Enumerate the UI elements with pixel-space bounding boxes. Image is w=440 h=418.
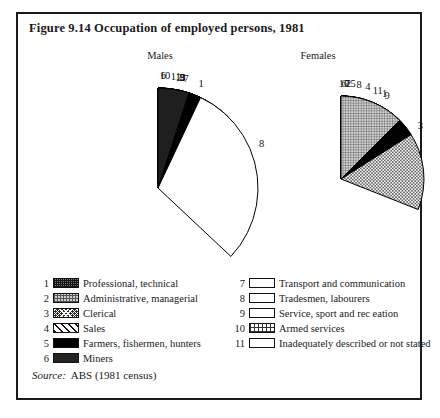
pie-slice-label-3: 3 bbox=[418, 120, 423, 131]
legend-swatch-7 bbox=[249, 278, 275, 288]
figure-frame: Figure 9.14 Occupation of employed perso… bbox=[16, 12, 422, 400]
legend-label: Armed services bbox=[275, 323, 345, 334]
legend-label: Sales bbox=[79, 323, 105, 334]
legend-number: 2 bbox=[34, 293, 53, 304]
legend-number: 1 bbox=[34, 278, 53, 289]
pie-slice-label-9: 9 bbox=[180, 72, 185, 83]
pie-slice-label-10: 10 bbox=[339, 78, 350, 89]
source-label: Source: bbox=[32, 369, 66, 381]
legend-label: Tradesmen, labourers bbox=[275, 293, 370, 304]
legend-label: Miners bbox=[79, 353, 113, 364]
legend-item-10: 10Armed services bbox=[230, 321, 426, 336]
legend-item-4: 4Sales bbox=[34, 321, 234, 336]
legend-label: Clerical bbox=[79, 308, 116, 319]
pie-slice-label-10: 10 bbox=[160, 70, 171, 81]
legend-number: 7 bbox=[230, 278, 249, 289]
pie-slice-label-8: 8 bbox=[356, 79, 361, 90]
legend-item-7: 7Transport and communication bbox=[230, 276, 426, 291]
legend-swatch-8 bbox=[249, 293, 275, 303]
legend-column-right: 7Transport and communication8Tradesmen, … bbox=[230, 276, 426, 351]
legend-number: 5 bbox=[34, 338, 53, 349]
legend-label: Service, sport and rec eation bbox=[275, 308, 398, 319]
pie-slice-label-4: 4 bbox=[365, 81, 371, 92]
legend-swatch-1 bbox=[53, 278, 79, 288]
legend-item-2: 2Administrative, managerial bbox=[34, 291, 234, 306]
legend-swatch-6 bbox=[53, 353, 79, 363]
legend-item-11: 11Inadequately described or not stated bbox=[230, 336, 426, 351]
pie-slice-label-1: 1 bbox=[199, 78, 204, 89]
legend-swatch-5 bbox=[53, 338, 79, 348]
legend-number: 10 bbox=[230, 323, 249, 334]
legend-label: Inadequately described or not stated bbox=[275, 338, 431, 349]
legend-swatch-4 bbox=[53, 323, 79, 333]
legend-swatch-9 bbox=[249, 308, 275, 318]
legend-number: 6 bbox=[34, 353, 53, 364]
legend-item-8: 8Tradesmen, labourers bbox=[230, 291, 426, 306]
legend-number: 11 bbox=[230, 338, 249, 349]
legend-label: Farmers, fishermen, hunters bbox=[79, 338, 201, 349]
legend-number: 3 bbox=[34, 308, 53, 319]
source-line: Source:ABS (1981 census) bbox=[32, 369, 156, 381]
legend-item-9: 9Service, sport and rec eation bbox=[230, 306, 426, 321]
legend-column-left: 1Professional, technical2Administrative,… bbox=[34, 276, 234, 366]
legend-label: Professional, technical bbox=[79, 278, 178, 289]
pie-slice-label-11: 11 bbox=[171, 71, 181, 82]
legend-swatch-10 bbox=[249, 323, 275, 333]
legend-number: 4 bbox=[34, 323, 53, 334]
legend-swatch-3 bbox=[53, 308, 79, 318]
pie-slice-label-5: 5 bbox=[350, 78, 355, 89]
pie-slice-label-11: 11 bbox=[373, 85, 383, 96]
legend-number: 9 bbox=[230, 308, 249, 319]
pie-chart-females: 1234567891011 bbox=[236, 74, 440, 288]
legend-swatch-11 bbox=[249, 338, 275, 348]
legend-number: 8 bbox=[230, 293, 249, 304]
pie-heading-females: Females bbox=[253, 50, 383, 61]
legend-item-1: 1Professional, technical bbox=[34, 276, 234, 291]
legend-item-6: 6Miners bbox=[34, 351, 234, 366]
legend-item-3: 3Clerical bbox=[34, 306, 234, 321]
legend-label: Transport and communication bbox=[275, 278, 405, 289]
legend-swatch-2 bbox=[53, 293, 79, 303]
legend-item-5: 5Farmers, fishermen, hunters bbox=[34, 336, 234, 351]
legend-label: Administrative, managerial bbox=[79, 293, 198, 304]
pie-heading-males: Males bbox=[80, 50, 240, 61]
source-value: ABS (1981 census) bbox=[66, 369, 157, 381]
pie-slice-label-9: 9 bbox=[385, 90, 390, 101]
figure-title: Figure 9.14 Occupation of employed perso… bbox=[29, 21, 305, 36]
